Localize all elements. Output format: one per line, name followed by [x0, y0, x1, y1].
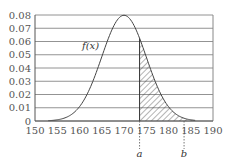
y-tick-label: 0.06	[9, 36, 31, 47]
marker-label-b: b	[181, 148, 187, 159]
x-tick-label: 165	[92, 125, 111, 136]
y-tick-label: 0.04	[9, 63, 31, 74]
marker-label-a: a	[137, 148, 143, 159]
hatch-area	[140, 38, 196, 121]
y-tick-label: 0.02	[9, 89, 31, 100]
shaded-region	[140, 38, 196, 121]
x-tick-label: 150	[25, 125, 44, 136]
x-tick-label: 180	[159, 125, 178, 136]
normal-distribution-chart: 00.010.020.030.040.050.060.070.08 150155…	[0, 0, 230, 159]
x-tick-label: 190	[203, 125, 222, 136]
y-axis-ticks: 00.010.020.030.040.050.060.070.08	[9, 10, 31, 127]
y-tick-label: 0.08	[9, 10, 31, 21]
y-tick-label: 0.05	[9, 49, 31, 60]
x-axis-ticks: 150155160165170175180185190	[25, 125, 222, 136]
grid-lines	[35, 15, 213, 121]
y-tick-label: 0.07	[9, 23, 31, 34]
x-tick-label: 160	[70, 125, 89, 136]
x-tick-label: 155	[48, 125, 67, 136]
y-tick-label: 0.01	[9, 102, 31, 113]
y-tick-label: 0.03	[9, 76, 31, 87]
x-tick-label: 170	[114, 125, 133, 136]
curve-label: f(x)	[81, 40, 99, 51]
